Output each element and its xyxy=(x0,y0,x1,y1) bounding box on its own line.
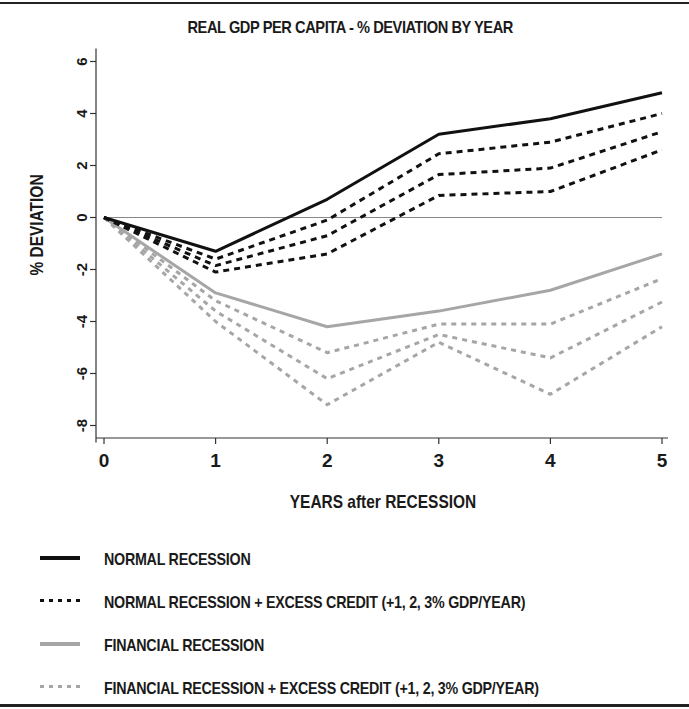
x-tick-label: 1 xyxy=(210,450,221,471)
legend: NORMAL RECESSION NORMAL RECESSION + EXCE… xyxy=(40,538,622,709)
legend-swatch-dotted-gray xyxy=(40,685,80,688)
x-tick-label: 0 xyxy=(99,450,110,471)
series-lines xyxy=(104,93,662,405)
series-line-0 xyxy=(104,93,662,252)
y-tick-label: 0 xyxy=(73,213,90,221)
y-tick-label: 2 xyxy=(73,161,90,169)
legend-swatch-solid-gray xyxy=(40,642,80,646)
y-tick-label: -2 xyxy=(73,263,90,276)
y-tick-label: -8 xyxy=(73,419,90,432)
legend-swatch-solid-black xyxy=(40,556,80,560)
legend-label: FINANCIAL RECESSION xyxy=(104,636,264,656)
line-chart: 6420-2-4-6-8012345 YEARS after RECESSION… xyxy=(0,0,689,530)
legend-label: NORMAL RECESSION + EXCESS CREDIT (+1, 2,… xyxy=(104,593,525,613)
legend-item-normal-recession-excess-credit: NORMAL RECESSION + EXCESS CREDIT (+1, 2,… xyxy=(40,581,622,624)
x-tick-label: 5 xyxy=(657,450,668,471)
series-line-7 xyxy=(104,218,662,405)
y-axis-title: % DEVIATION xyxy=(27,174,47,275)
legend-label: NORMAL RECESSION xyxy=(104,550,250,570)
series-line-1 xyxy=(104,114,662,260)
legend-item-financial-recession: FINANCIAL RECESSION xyxy=(40,624,622,667)
series-line-5 xyxy=(104,218,662,353)
y-tick-label: 4 xyxy=(73,109,90,118)
series-line-4 xyxy=(104,218,662,327)
x-tick-label: 4 xyxy=(545,450,556,471)
legend-item-financial-recession-excess-credit: FINANCIAL RECESSION + EXCESS CREDIT (+1,… xyxy=(40,667,622,709)
bottom-border xyxy=(0,704,689,707)
legend-label: FINANCIAL RECESSION + EXCESS CREDIT (+1,… xyxy=(104,679,539,699)
y-tick-label: -6 xyxy=(73,367,90,380)
legend-swatch-dotted-black xyxy=(40,599,80,602)
series-line-2 xyxy=(104,132,662,266)
y-tick-label: -4 xyxy=(73,314,90,328)
y-tick-label: 6 xyxy=(73,57,90,65)
legend-item-normal-recession: NORMAL RECESSION xyxy=(40,538,622,581)
x-axis-title: YEARS after RECESSION xyxy=(290,492,476,512)
x-tick-label: 2 xyxy=(322,450,333,471)
x-tick-label: 3 xyxy=(434,450,445,471)
